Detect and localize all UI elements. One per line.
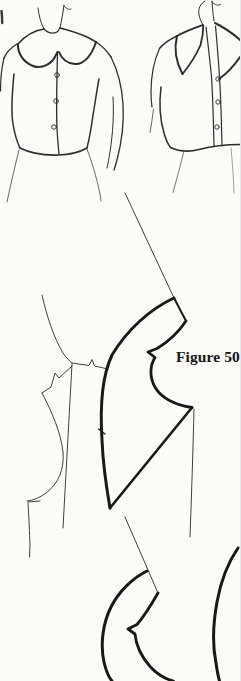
skirt-flare-right bbox=[87, 149, 101, 201]
skirt-flare-right bbox=[231, 148, 234, 193]
bodice-construction-lines bbox=[27, 193, 194, 593]
shoulder-right-line bbox=[96, 42, 111, 57]
figure-label: Figure 50 bbox=[176, 349, 240, 365]
collar-back-edge bbox=[174, 298, 186, 321]
shoulder-left-line bbox=[160, 36, 178, 49]
pointed-collar-left-outer-edge bbox=[176, 36, 183, 74]
neck-hook-line bbox=[64, 6, 71, 9]
blouse-pointed-collar-sketch bbox=[150, 1, 240, 193]
collar-right-edge-arc bbox=[214, 548, 238, 681]
collar-neckline-nape bbox=[44, 28, 60, 33]
pointed-collar-right-top-edge bbox=[215, 23, 240, 40]
figure50-pattern-draft bbox=[27, 193, 194, 593]
body-left-line bbox=[160, 87, 171, 148]
neck-left-line bbox=[199, 1, 205, 25]
armhole-curve bbox=[27, 393, 63, 501]
side-seam-line bbox=[28, 503, 30, 557]
collar-outer-edge-arc bbox=[102, 571, 147, 681]
skirt-flare-left bbox=[173, 151, 184, 193]
placket-left-line bbox=[206, 27, 214, 146]
body-left-line bbox=[12, 74, 20, 148]
underarm-line bbox=[28, 501, 40, 502]
neck-hook-line bbox=[212, 2, 221, 5]
pointed-collar-left-top-edge bbox=[177, 25, 203, 36]
collar-outer-edge-arc bbox=[101, 298, 174, 508]
skirt-flare-left bbox=[7, 150, 19, 202]
button bbox=[216, 100, 220, 104]
shoulder-line-with-notch bbox=[72, 360, 108, 370]
blouse-round-collar-sketch bbox=[1, 5, 124, 202]
partial-pattern-draft-bottom bbox=[102, 548, 238, 681]
button bbox=[215, 125, 219, 129]
collar-neckline-with-notch bbox=[128, 593, 174, 681]
neck-right-line bbox=[60, 5, 64, 28]
collar-pattern-outline bbox=[99, 298, 193, 508]
round-collar-right-lobe bbox=[59, 42, 96, 64]
collar-neckline-right bbox=[60, 28, 96, 42]
round-collar-left-lobe bbox=[18, 44, 58, 67]
guide-diagonal-line bbox=[125, 193, 174, 298]
arm-left-outer-line bbox=[1, 58, 5, 91]
collar-front-edge bbox=[110, 408, 192, 509]
arm-left-outer-line bbox=[151, 49, 160, 108]
book-page: Figure 50 bbox=[0, 0, 240, 681]
shoulder-left-line bbox=[4, 44, 17, 58]
pointed-collar-right-inner-edge bbox=[219, 57, 240, 79]
scan-edge-mark bbox=[2, 11, 3, 23]
center-front-line bbox=[63, 364, 72, 528]
bodice-neckline-curve bbox=[42, 295, 72, 363]
shoulder-seam-with-notch bbox=[42, 366, 72, 393]
pointed-collar-left-inner-edge bbox=[183, 26, 204, 74]
collar-neckline-left bbox=[18, 29, 44, 44]
neck-left-line bbox=[38, 8, 44, 29]
body-right-line bbox=[87, 79, 99, 148]
line-art-canvas bbox=[0, 0, 240, 681]
arm-right-inner-line bbox=[107, 97, 113, 168]
arm-crease-line bbox=[150, 109, 154, 133]
hem-line bbox=[20, 148, 87, 155]
button bbox=[52, 125, 57, 130]
hem-line bbox=[171, 145, 241, 152]
front-extension-line bbox=[190, 409, 194, 537]
